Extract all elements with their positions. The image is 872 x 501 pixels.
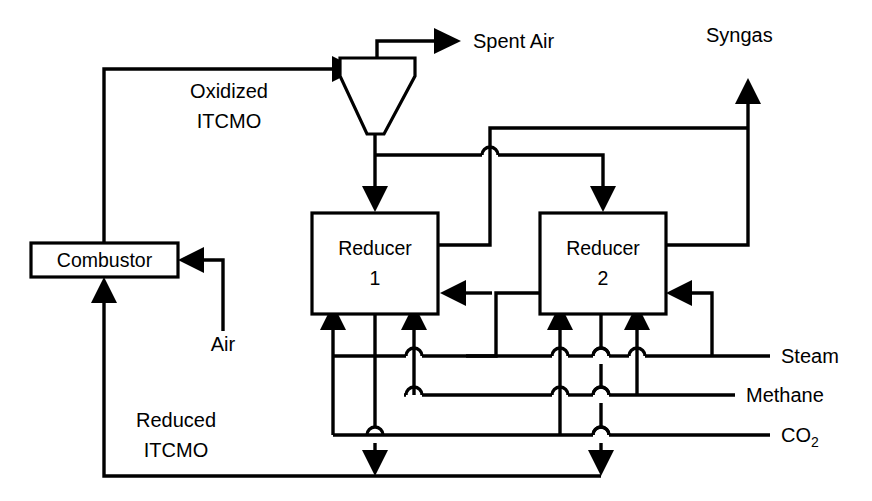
pipe-cyclone-downcomer (362, 133, 388, 212)
pipe-syngas (735, 78, 761, 128)
reducer2-label-line2: 2 (598, 267, 609, 289)
pipe-steam-riser-reducer1 (401, 304, 427, 395)
arrowhead-reducer2-top (590, 186, 616, 212)
arrowhead-reducer2-right (666, 280, 692, 306)
co2-base: CO (781, 424, 811, 446)
pipe-co2-riser-reducer2 (547, 304, 573, 435)
reducer2-box (540, 213, 666, 314)
stream-label-oxidized-itcmo-line2: ITCMO (197, 110, 261, 132)
reducer1-label-line2: 1 (370, 267, 381, 289)
stream-label-air: Air (211, 333, 236, 355)
arrowhead-reducer2-return (588, 450, 614, 476)
pipe-reducer1-solids-down (362, 314, 388, 476)
pipe-reducer2-gas-outlet (666, 128, 748, 245)
stream-label-oxidized-itcmo-line1: Oxidized (190, 80, 268, 102)
arrowhead-syngas (735, 78, 761, 104)
arrowhead-reducer1-right (440, 280, 466, 306)
cyclone-separator (340, 58, 415, 134)
stream-label-spent-air: Spent Air (473, 30, 555, 52)
stream-label-methane: Methane (746, 384, 824, 406)
arrowhead-reducer1-top (362, 186, 388, 212)
stream-label-steam: Steam (781, 345, 839, 367)
pipe-solids-split-to-reducer2 (375, 147, 616, 212)
pipe-steam-to-reducer2-side (666, 280, 712, 356)
stream-label-co2: CO2 (781, 424, 819, 450)
co2-subscript: 2 (811, 434, 819, 450)
arrowhead-reducer1-return (362, 450, 388, 476)
combustor-label: Combustor (57, 249, 153, 271)
pipe-spent-air (377, 28, 461, 58)
arrowhead-combustor-air (178, 247, 204, 273)
reducer2-label-line1: Reducer (566, 237, 640, 259)
reducer1-label-line1: Reducer (338, 237, 412, 259)
arrowhead-spent-air (434, 28, 461, 54)
pipe-steam-riser-reducer2 (624, 304, 650, 395)
stream-label-syngas: Syngas (706, 24, 773, 46)
stream-label-reduced-itcmo-line1: Reduced (136, 409, 216, 431)
pipe-co2-header (333, 427, 770, 435)
pipe-air-inlet (178, 247, 223, 331)
flowsheet-canvas: Combustor Reducer 1 Reducer 2 Spent Air … (0, 0, 872, 501)
pipe-reducer2-solids-down (588, 314, 614, 476)
reducer1-box (312, 213, 438, 314)
pipe-methane-header (404, 387, 735, 395)
process-flow-diagram: Combustor Reducer 1 Reducer 2 Spent Air … (0, 0, 872, 501)
stream-label-reduced-itcmo-line2: ITCMO (144, 439, 208, 461)
pipe-steam-header (333, 348, 770, 356)
arrowhead-combustor-bottom (91, 277, 117, 303)
pipe-co2-riser-reducer1 (320, 304, 346, 435)
pipe-reducer2-to-reducer1 (440, 280, 540, 356)
